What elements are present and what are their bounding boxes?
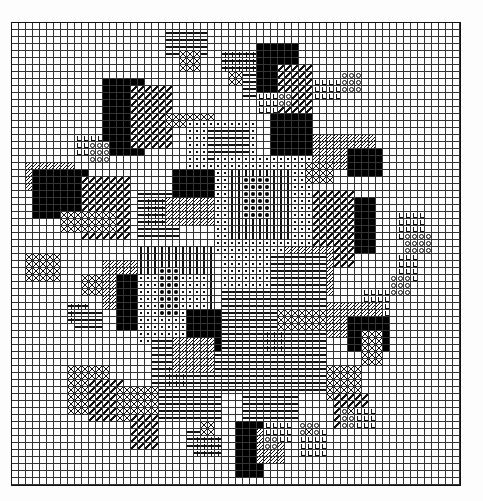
stitch-dash xyxy=(236,373,243,380)
stitch-dark-filled-cross xyxy=(278,128,285,135)
stitch-dark-filled-cross xyxy=(180,191,187,198)
grid-cell xyxy=(180,450,187,457)
grid-cell xyxy=(264,30,271,37)
grid-cell xyxy=(61,44,68,51)
grid-cell xyxy=(68,114,75,121)
grid-cell xyxy=(75,289,82,296)
grid-cell xyxy=(369,436,376,443)
grid-cell xyxy=(355,478,362,485)
stitch-dash xyxy=(215,408,222,415)
stitch-hatched-fill xyxy=(117,261,124,268)
grid-cell xyxy=(19,394,26,401)
grid-cell xyxy=(327,352,334,359)
grid-cell xyxy=(383,366,390,373)
grid-cell xyxy=(19,65,26,72)
grid-cell xyxy=(124,240,131,247)
grid-cell xyxy=(446,415,453,422)
grid-cell xyxy=(369,261,376,268)
stitch-dash xyxy=(222,149,229,156)
stitch-dark-filled-cross xyxy=(271,44,278,51)
grid-cell xyxy=(12,79,19,86)
stitch-half-diagonal-stitch xyxy=(348,226,355,233)
stitch-dot-in-square xyxy=(215,233,222,240)
stitch-dark-filled-cross xyxy=(278,114,285,121)
grid-cell xyxy=(383,436,390,443)
stitch-dash xyxy=(166,191,173,198)
grid-cell xyxy=(12,212,19,219)
stitch-hatched-fill xyxy=(369,142,376,149)
stitch-dash xyxy=(257,394,264,401)
grid-cell xyxy=(320,72,327,79)
stitch-dark-filled-cross xyxy=(187,317,194,324)
stitch-dash xyxy=(152,373,159,380)
stitch-half-diagonal-stitch xyxy=(145,128,152,135)
stitch-vertical-bar xyxy=(208,282,215,289)
grid-cell xyxy=(19,324,26,331)
grid-cell xyxy=(75,100,82,107)
grid-cell xyxy=(418,289,425,296)
stitch-half-diagonal-stitch xyxy=(103,198,110,205)
stitch-vertical-bar xyxy=(285,219,292,226)
stitch-dark-filled-cross xyxy=(75,184,82,191)
stitch-vertical-bar xyxy=(285,226,292,233)
grid-cell xyxy=(166,450,173,457)
grid-cell xyxy=(446,345,453,352)
stitch-dash xyxy=(180,415,187,422)
stitch-L-shape xyxy=(320,93,327,100)
grid-cell xyxy=(432,100,439,107)
stitch-dash xyxy=(173,401,180,408)
stitch-hatched-fill xyxy=(327,317,334,324)
stitch-hatched-fill xyxy=(327,268,334,275)
grid-cell xyxy=(376,177,383,184)
stitch-dark-filled-cross xyxy=(124,282,131,289)
stitch-dash xyxy=(243,324,250,331)
grid-cell xyxy=(453,443,460,450)
grid-cell xyxy=(159,422,166,429)
grid-cell xyxy=(96,240,103,247)
grid-cell xyxy=(54,72,61,79)
grid-cell xyxy=(131,226,138,233)
grid-cell xyxy=(33,233,40,240)
stitch-hatched-fill xyxy=(117,268,124,275)
grid-cell xyxy=(68,79,75,86)
grid-cell xyxy=(341,450,348,457)
stitch-cross-stitch xyxy=(54,254,61,261)
grid-cell xyxy=(313,23,320,30)
grid-cell xyxy=(215,72,222,79)
stitch-dash xyxy=(152,352,159,359)
stitch-dark-filled-cross xyxy=(103,86,110,93)
stitch-hatched-fill xyxy=(208,219,215,226)
grid-cell xyxy=(96,93,103,100)
grid-cell xyxy=(12,121,19,128)
grid-cell xyxy=(110,373,117,380)
grid-cell xyxy=(397,79,404,86)
grid-cell xyxy=(390,478,397,485)
stitch-hatched-fill xyxy=(47,163,54,170)
grid-cell xyxy=(362,268,369,275)
stitch-hatched-fill xyxy=(327,303,334,310)
grid-cell xyxy=(313,394,320,401)
grid-cell xyxy=(187,86,194,93)
stitch-dark-filled-cross xyxy=(243,429,250,436)
grid-cell xyxy=(75,72,82,79)
grid-cell xyxy=(446,443,453,450)
stitch-cross-stitch xyxy=(131,401,138,408)
grid-cell xyxy=(439,37,446,44)
stitch-hatched-fill xyxy=(334,142,341,149)
grid-cell xyxy=(355,114,362,121)
grid-cell xyxy=(411,443,418,450)
grid-cell xyxy=(257,121,264,128)
grid-cell xyxy=(397,422,404,429)
grid-cell xyxy=(54,156,61,163)
stitch-dot-in-square xyxy=(201,121,208,128)
stitch-dash xyxy=(243,72,250,79)
grid-cell xyxy=(446,58,453,65)
stitch-dark-filled-cross xyxy=(376,324,383,331)
stitch-half-diagonal-stitch xyxy=(96,415,103,422)
grid-cell xyxy=(145,79,152,86)
grid-cell xyxy=(306,464,313,471)
stitch-dark-filled-cross xyxy=(138,149,145,156)
stitch-dark-filled-cross xyxy=(117,100,124,107)
stitch-cross-stitch xyxy=(348,366,355,373)
stitch-cross-stitch xyxy=(355,387,362,394)
